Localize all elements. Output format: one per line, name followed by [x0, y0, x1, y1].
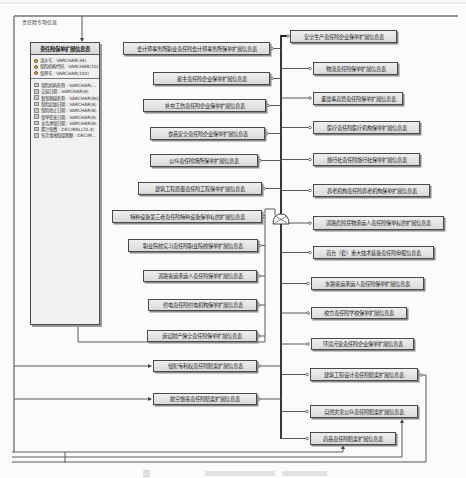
entity-box-right[interactable]: 自然灾害公众责任险赔案扩展信息表 [310, 405, 418, 418]
column-icon [34, 89, 39, 94]
primary-key-section: 流水号 : VARCHAR(34) 保险机构代码 : VARCHAR(10) 保… [31, 55, 99, 79]
entity-box-right[interactable]: 校方责任险学校保单扩展信息表 [311, 307, 407, 319]
column-icon [34, 95, 39, 100]
entity-title: 责任险保单扩展信息表 [31, 43, 99, 55]
entity-box-right[interactable]: 环境污染责任险企业保单扩展信息表 [311, 338, 414, 350]
entity-box-right[interactable]: 医疗责任险医疗机构保单扩展信息表 [313, 121, 420, 134]
attribute-section: 保险机构名称 : VARCHAR(... 交易日期 : VARCHAR(8) 套… [31, 79, 99, 139]
attribute-row: 保险终止日期 : VARCHAR(8) [31, 107, 99, 113]
figure-caption: 图 [143, 468, 151, 478]
attribute-text: 保险起始日期 : VARCHAR(8) [41, 101, 96, 107]
column-icon [34, 108, 39, 113]
entity-box-right[interactable]: 董监事高管责任险保单扩展信息表 [313, 92, 403, 105]
pk-row: 保单号 : VARCHAR(100) [31, 70, 99, 76]
key-icon [34, 65, 38, 68]
entity-box-right[interactable]: 药品责任险赔案扩展信息表 [310, 432, 396, 445]
entity-box-left[interactable]: 雇主责任险企业保单扩展信息表 [153, 72, 270, 85]
column-icon [34, 102, 39, 107]
attribute-text: 累计保费 : DECIMAL(20,4) [41, 126, 94, 132]
package-label: 责任险专项信息 [22, 18, 57, 25]
attribute-text: 每次事故赔偿限额 : DECIM... [41, 132, 96, 138]
column-icon [34, 127, 39, 132]
entity-box-left[interactable]: 补充工伤责任险企业保单扩展信息表 [143, 99, 266, 112]
entity-box-left[interactable]: 航空旅客责任险赔案扩展信息表 [153, 393, 257, 405]
attribute-row: 保单签发日期 : VARCHAR(8) [31, 113, 99, 119]
entity-box-right[interactable]: 旅行社责任险旅行社保单扩展信息表 [313, 153, 420, 166]
entity-box-right[interactable]: 安全生产责任险企业保单扩展信息表 [290, 30, 397, 43]
caption-cropped-text [205, 471, 275, 476]
attribute-text: 业务承保日期 : VARCHAR(8) [41, 120, 96, 126]
junction-icon [273, 214, 289, 224]
main-entity-liability-policy-ext[interactable]: 责任险保单扩展信息表 流水号 : VARCHAR(34) 保险机构代码 : VA… [30, 42, 100, 325]
entity-box-left[interactable]: 公众责任险场所保单扩展信息表 [150, 154, 258, 167]
entity-box-left[interactable]: 食品安全责任险企业保单扩展信息表 [150, 127, 265, 140]
entity-box-left[interactable]: 会计师事务所职业责任险会计师事务所保单扩展信息表 [123, 42, 270, 55]
pk-row: 保险机构代码 : VARCHAR(10) [31, 63, 99, 69]
attribute-row: 保险机构名称 : VARCHAR(... [31, 82, 99, 88]
attribute-text: 保险机构名称 : VARCHAR(... [41, 82, 96, 88]
entity-box-left[interactable]: 建筑工程质量责任险工程保单扩展信息表 [138, 182, 262, 195]
entity-box-left[interactable]: 供电责任险供电机构保单扩展信息表 [148, 299, 257, 311]
key-icon [34, 59, 38, 62]
attribute-row: 套保基础名称 : VARCHAR(80) [31, 94, 99, 100]
entity-box-left[interactable]: 道路客运承运人责任险保单扩展信息表 [143, 270, 257, 282]
attribute-row: 每次事故赔偿限额 : DECIM... [31, 132, 99, 138]
entity-box-right[interactable]: 水路客运承运人责任险保单扩展信息表 [311, 277, 424, 290]
attribute-text: 套保基础名称 : VARCHAR(80) [41, 95, 99, 101]
caption-cropped-text [282, 471, 327, 476]
column-icon [34, 133, 39, 138]
attribute-text: 保单签发日期 : VARCHAR(8) [41, 114, 96, 120]
entity-box-left[interactable]: 诉讼财产保全责任险保单扩展信息表 [147, 330, 257, 342]
entity-box-right[interactable]: 道路危险货物承运人责任险保单标的扩展信息表 [313, 216, 444, 230]
column-icon [34, 114, 39, 119]
column-icon [34, 121, 39, 126]
entity-box-right[interactable]: 建筑工程设计责任险赔案扩展信息表 [310, 368, 418, 381]
entity-box-right[interactable]: 物流责任险保单扩展信息表 [313, 62, 398, 75]
attribute-row: 交易日期 : VARCHAR(8) [31, 88, 99, 94]
entity-box-left[interactable]: 侵犯专利权责任险赔案扩展信息表 [153, 360, 257, 372]
pk-text: 保险机构代码 : VARCHAR(10) [40, 63, 98, 69]
attribute-row: 业务承保日期 : VARCHAR(8) [31, 120, 99, 126]
diagram-canvas: 责任险专项信息 责任险保单扩展信息表 流水号 : VARCHAR(34) 保险机… [0, 0, 466, 478]
entity-box-left[interactable]: 特种设备第三者责任险特种设备保单标的扩展信息表 [112, 210, 262, 223]
attribute-row: 累计保费 : DECIMAL(20,4) [31, 126, 99, 132]
pk-text: 保单号 : VARCHAR(100) [40, 70, 89, 76]
entity-box-left[interactable]: 职业院校实习责任险职业院校保单扩展信息表 [128, 239, 258, 252]
column-icon [34, 83, 39, 88]
attribute-text: 保险终止日期 : VARCHAR(8) [41, 107, 96, 113]
key-icon [34, 71, 38, 74]
entity-box-right[interactable]: 首台（套）重大技术装备责任险申报信息表 [313, 246, 434, 259]
entity-box-right[interactable]: 养老机构责任险养老机构保单扩展信息表 [313, 184, 430, 197]
pk-text: 流水号 : VARCHAR(34) [40, 57, 86, 63]
attribute-row: 保险起始日期 : VARCHAR(8) [31, 101, 99, 107]
attribute-text: 交易日期 : VARCHAR(8) [41, 88, 88, 94]
